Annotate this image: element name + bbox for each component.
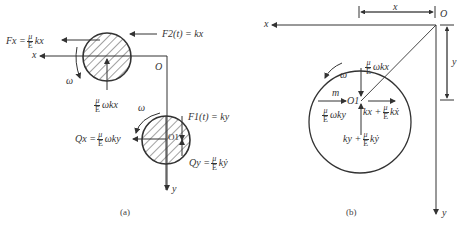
left-force-label: μEωky <box>321 107 346 124</box>
x-axis-a-label: x <box>32 50 36 60</box>
caption-b: (b) <box>346 207 357 217</box>
bottom-force-label: ky +μEkẏ <box>343 131 379 148</box>
omega-arrow-upper <box>76 47 80 78</box>
dim-x-label: x <box>393 2 397 12</box>
caption-a: (a) <box>120 207 130 217</box>
origin-a-label: O <box>155 62 162 72</box>
y-axis-a-label: y <box>172 184 176 194</box>
fx-label: Fx =μEkx <box>6 33 44 50</box>
top-force-label: μEωkx <box>364 59 389 76</box>
f2-label: F2(t) = kx <box>162 29 203 39</box>
mass-label: m <box>332 88 339 98</box>
dim-y-label: y <box>452 57 456 67</box>
omega-b-label: ω <box>340 70 347 80</box>
omega-lower-label: ω <box>138 103 145 113</box>
right-force-label: kx +μEkẋ <box>363 104 399 121</box>
o1-a-label: O1 <box>168 133 179 142</box>
upper-force-label: μEωkx <box>93 97 118 114</box>
qy-label: Qy =μEkẏ <box>189 155 228 172</box>
x-axis-b-label: x <box>264 19 268 29</box>
origin-b-label: O <box>440 9 447 19</box>
y-axis-b-label: y <box>442 208 446 218</box>
qx-label: Qx =μEωky <box>75 131 121 148</box>
o1-b-label: O1 <box>347 96 359 106</box>
omega-upper-label: ω <box>66 76 73 86</box>
f1-label: F1(t) = ky <box>188 112 229 122</box>
